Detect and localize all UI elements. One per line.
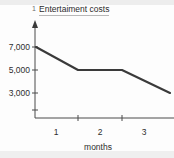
- y-tick-label: 5,000: [9, 65, 31, 75]
- y-axis-arrow-icon: [32, 20, 38, 28]
- data-series-line: [36, 47, 170, 93]
- chart-figure: 1 Entertaiment costs 7,000 5,000 3,000 1…: [0, 0, 174, 158]
- x-tick-label: 3: [142, 127, 147, 137]
- x-tick-label: 1: [54, 127, 59, 137]
- y-tick-label: 7,000: [9, 42, 31, 52]
- y-tick-label: 3,000: [9, 88, 31, 98]
- x-axis-title: months: [84, 142, 112, 152]
- x-tick-label: 2: [98, 127, 103, 137]
- line-chart-plot: 7,000 5,000 3,000 1 2 3 months: [0, 0, 174, 158]
